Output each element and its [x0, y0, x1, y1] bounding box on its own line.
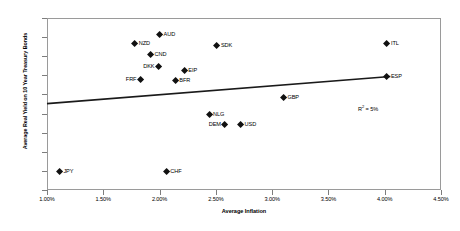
data-point-label: SDK — [221, 42, 232, 48]
x-tick-mark — [216, 190, 217, 195]
x-tick-label: 3.50% — [308, 196, 348, 202]
data-point-label: EIP — [188, 67, 197, 73]
y-tick-mark — [42, 18, 47, 19]
data-point-label: FRF — [126, 76, 137, 82]
x-tick-mark — [47, 190, 48, 195]
data-point-label: AUD — [164, 31, 176, 37]
x-tick-label: 3.00% — [252, 196, 292, 202]
y-tick-mark — [42, 37, 47, 38]
data-point-label: GBP — [287, 94, 299, 100]
r-squared-annotation: R2 = 5% — [358, 106, 378, 113]
x-axis-title: Average Inflation — [47, 208, 441, 214]
data-point-label: DKK — [143, 63, 154, 69]
plot-area — [47, 18, 441, 190]
data-point-label: USD — [245, 121, 257, 127]
y-axis-title: Average Real Yield on 10 Year Treasury B… — [22, 6, 28, 176]
x-tick-label: 2.00% — [140, 196, 180, 202]
y-tick-mark — [42, 114, 47, 115]
x-tick-label: 1.00% — [27, 196, 67, 202]
x-tick-mark — [385, 190, 386, 195]
scatter-chart: 2.00%2.50%3.00%3.50%4.00%4.50%5.00%5.50%… — [0, 0, 460, 231]
data-point-label: NZD — [139, 40, 150, 46]
x-tick-mark — [160, 190, 161, 195]
data-point-label: BFR — [179, 77, 190, 83]
y-tick-mark — [42, 171, 47, 172]
x-tick-label: 4.00% — [365, 196, 405, 202]
x-tick-mark — [328, 190, 329, 195]
x-tick-mark — [272, 190, 273, 195]
data-point-label: NLG — [213, 111, 224, 117]
x-tick-label: 1.50% — [83, 196, 123, 202]
data-point-label: JPY — [63, 168, 73, 174]
y-tick-mark — [42, 75, 47, 76]
data-point-label: DEM — [209, 121, 221, 127]
x-tick-mark — [441, 190, 442, 195]
y-tick-mark — [42, 152, 47, 153]
y-tick-mark — [42, 133, 47, 134]
data-point-label: ESP — [391, 73, 402, 79]
x-tick-label: 2.50% — [196, 196, 236, 202]
x-tick-label: 4.50% — [421, 196, 460, 202]
y-tick-mark — [42, 94, 47, 95]
data-point-label: CND — [155, 51, 167, 57]
x-tick-mark — [103, 190, 104, 195]
y-tick-mark — [42, 56, 47, 57]
data-point-label: ITL — [391, 40, 399, 46]
data-point-label: CHF — [170, 168, 181, 174]
